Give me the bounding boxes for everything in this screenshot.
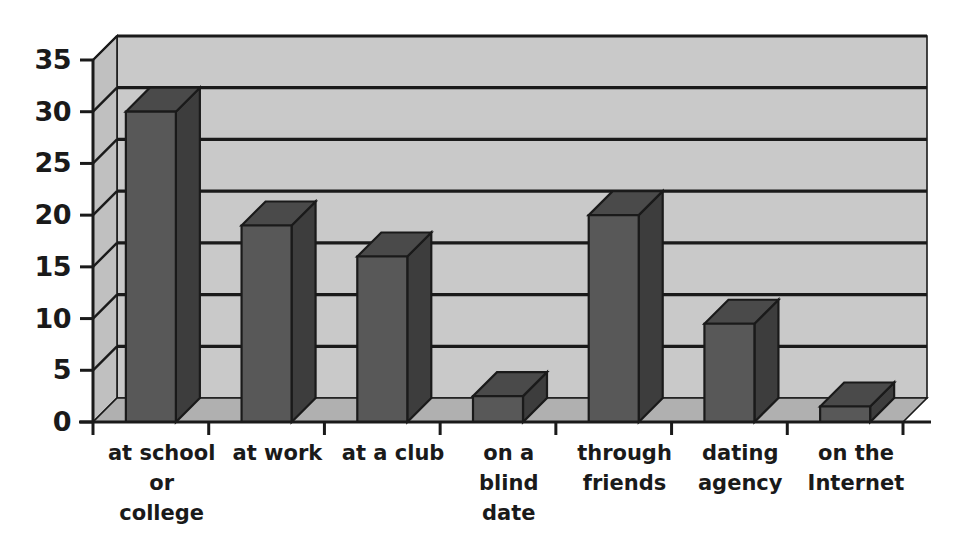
bar-side-face [639,191,663,422]
y-tick-label-0: 0 [53,406,71,437]
bar-side-face [407,233,431,422]
bar-front-face [357,257,407,422]
bar-0 [126,88,200,422]
plot-area-3d [93,36,927,422]
y-tick-label-15: 15 [34,251,71,282]
bar-2 [357,233,431,422]
bar-chart-figure: 05101520253035 at schoolorcollegeat work… [0,0,967,559]
y-tick-label-20: 20 [34,199,71,230]
bar-front-face [704,324,754,422]
category-label-1: at work [233,441,324,465]
left-side-wall [93,36,117,422]
bar-front-face [242,225,292,422]
bar-front-face [589,215,639,422]
bar-side-face [292,201,316,422]
bar-4 [589,191,663,422]
category-label-2: at a club [342,441,445,465]
category-label-3: on ablinddate [479,441,538,525]
bar-front-face [126,112,176,422]
bar-1 [242,201,316,422]
bar-front-face [473,396,523,422]
y-tick-label-10: 10 [34,303,71,334]
chart-canvas: 05101520253035 at schoolorcollegeat work… [0,0,967,559]
back-wall [117,36,927,398]
y-tick-label-5: 5 [53,354,71,385]
y-tick-label-25: 25 [34,147,71,178]
bar-5 [704,300,778,422]
y-tick-label-35: 35 [34,44,71,75]
y-tick-label-30: 30 [34,96,71,127]
bar-side-face [176,88,200,422]
bar-front-face [820,406,870,422]
